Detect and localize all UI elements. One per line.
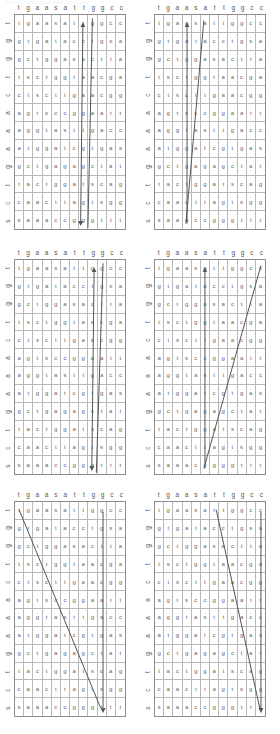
matrix-cell[interactable]: t: [116, 158, 125, 176]
matrix-cell[interactable]: s: [107, 278, 116, 296]
matrix-cell[interactable]: t: [183, 314, 192, 332]
matrix-cell[interactable]: a: [201, 502, 210, 520]
matrix-cell[interactable]: s: [183, 104, 192, 122]
matrix-cell[interactable]: t: [164, 520, 173, 538]
matrix-cell[interactable]: c: [228, 645, 237, 663]
matrix-cell[interactable]: t: [228, 33, 237, 51]
matrix-cell[interactable]: t: [228, 278, 237, 296]
matrix-cell[interactable]: c: [107, 122, 116, 140]
matrix-cell[interactable]: t: [238, 538, 247, 556]
matrix-cell[interactable]: a: [192, 140, 201, 158]
matrix-cell[interactable]: a: [228, 591, 237, 609]
matrix-cell[interactable]: a: [183, 698, 192, 716]
matrix-cell[interactable]: t: [210, 314, 219, 332]
matrix-cell[interactable]: a: [70, 158, 79, 176]
matrix-cell[interactable]: t: [210, 69, 219, 87]
matrix-cell[interactable]: t: [43, 69, 52, 87]
matrix-cell[interactable]: a: [238, 609, 247, 627]
matrix-cell[interactable]: a: [79, 296, 88, 314]
matrix-cell[interactable]: t: [155, 502, 164, 520]
matrix-cell[interactable]: a: [247, 140, 256, 158]
matrix-cell[interactable]: s: [155, 698, 164, 716]
matrix-cell[interactable]: a: [88, 349, 97, 367]
matrix-cell[interactable]: a: [70, 421, 79, 439]
matrix-cell[interactable]: g: [88, 502, 97, 520]
matrix-cell[interactable]: g: [70, 591, 79, 609]
matrix-cell[interactable]: a: [201, 33, 210, 51]
matrix-cell[interactable]: g: [52, 663, 61, 681]
matrix-cell[interactable]: a: [210, 680, 219, 698]
matrix-cell[interactable]: a: [210, 421, 219, 439]
matrix-cell[interactable]: c: [70, 385, 79, 403]
matrix-cell[interactable]: g: [173, 627, 182, 645]
matrix-cell[interactable]: g: [183, 627, 192, 645]
matrix-cell[interactable]: s: [256, 627, 265, 645]
matrix-cell[interactable]: s: [70, 538, 79, 556]
matrix-cell[interactable]: t: [15, 176, 24, 194]
matrix-cell[interactable]: g: [98, 15, 107, 33]
matrix-cell[interactable]: t: [192, 86, 201, 104]
matrix-cell[interactable]: g: [15, 520, 24, 538]
matrix-cell[interactable]: a: [79, 314, 88, 332]
matrix-cell[interactable]: a: [256, 51, 265, 69]
matrix-cell[interactable]: g: [238, 385, 247, 403]
matrix-cell[interactable]: g: [107, 556, 116, 574]
matrix-cell[interactable]: c: [210, 33, 219, 51]
matrix-cell[interactable]: t: [192, 193, 201, 211]
matrix-cell[interactable]: c: [164, 538, 173, 556]
matrix-cell[interactable]: t: [61, 680, 70, 698]
matrix-cell[interactable]: t: [52, 193, 61, 211]
matrix-cell[interactable]: s: [192, 260, 201, 278]
matrix-cell[interactable]: a: [70, 645, 79, 663]
matrix-cell[interactable]: a: [155, 591, 164, 609]
matrix-cell[interactable]: g: [88, 122, 97, 140]
matrix-cell[interactable]: t: [15, 69, 24, 87]
matrix-cell[interactable]: c: [88, 403, 97, 421]
matrix-cell[interactable]: a: [70, 680, 79, 698]
matrix-cell[interactable]: c: [210, 278, 219, 296]
matrix-cell[interactable]: t: [107, 211, 116, 229]
matrix-cell[interactable]: t: [33, 158, 42, 176]
matrix-cell[interactable]: t: [79, 421, 88, 439]
matrix-cell[interactable]: a: [219, 556, 228, 574]
matrix-cell[interactable]: a: [15, 104, 24, 122]
matrix-cell[interactable]: c: [173, 556, 182, 574]
matrix-cell[interactable]: t: [116, 645, 125, 663]
matrix-cell[interactable]: s: [164, 69, 173, 87]
matrix-cell[interactable]: a: [116, 69, 125, 87]
matrix-cell[interactable]: c: [155, 86, 164, 104]
matrix-cell[interactable]: a: [210, 438, 219, 456]
matrix-cell[interactable]: a: [70, 176, 79, 194]
matrix-cell[interactable]: s: [238, 193, 247, 211]
matrix-cell[interactable]: c: [183, 331, 192, 349]
matrix-cell[interactable]: g: [98, 140, 107, 158]
matrix-cell[interactable]: c: [238, 556, 247, 574]
matrix-cell[interactable]: s: [256, 140, 265, 158]
matrix-cell[interactable]: c: [192, 349, 201, 367]
matrix-cell[interactable]: g: [79, 211, 88, 229]
matrix-cell[interactable]: g: [210, 104, 219, 122]
matrix-cell[interactable]: a: [52, 385, 61, 403]
matrix-cell[interactable]: s: [52, 260, 61, 278]
matrix-cell[interactable]: g: [155, 403, 164, 421]
matrix-cell[interactable]: c: [61, 104, 70, 122]
matrix-cell[interactable]: g: [79, 140, 88, 158]
matrix-cell[interactable]: g: [155, 51, 164, 69]
matrix-cell[interactable]: g: [98, 260, 107, 278]
matrix-cell[interactable]: g: [61, 663, 70, 681]
matrix-cell[interactable]: t: [116, 104, 125, 122]
matrix-cell[interactable]: c: [88, 51, 97, 69]
matrix-cell[interactable]: a: [24, 193, 33, 211]
matrix-cell[interactable]: t: [107, 349, 116, 367]
matrix-cell[interactable]: g: [33, 385, 42, 403]
matrix-cell[interactable]: t: [173, 349, 182, 367]
matrix-cell[interactable]: t: [116, 403, 125, 421]
matrix-cell[interactable]: c: [183, 680, 192, 698]
matrix-cell[interactable]: g: [61, 403, 70, 421]
matrix-cell[interactable]: t: [70, 314, 79, 332]
matrix-cell[interactable]: g: [61, 645, 70, 663]
matrix-cell[interactable]: t: [247, 51, 256, 69]
matrix-cell[interactable]: g: [155, 296, 164, 314]
matrix-cell[interactable]: g: [238, 33, 247, 51]
matrix-cell[interactable]: a: [43, 698, 52, 716]
